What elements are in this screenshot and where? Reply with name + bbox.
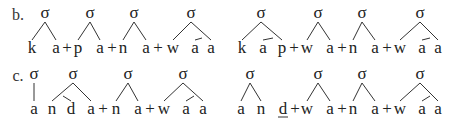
segment: a [87, 99, 95, 118]
branch-line [134, 22, 146, 40]
example-label: b. [12, 6, 24, 23]
branch-line [242, 22, 261, 40]
syllable-node: σ [357, 64, 366, 83]
branch-line [353, 83, 362, 101]
segment: w [167, 38, 180, 57]
segment: a [371, 38, 379, 57]
segment: a [259, 38, 267, 57]
syllable-node: σ [313, 3, 322, 22]
segment: a [237, 99, 245, 118]
segment: a [418, 38, 426, 57]
segment: a [326, 99, 334, 118]
branch-line [90, 22, 100, 40]
branch-line [123, 22, 134, 40]
segment: w [158, 99, 171, 118]
morpheme-boundary: + [153, 38, 163, 57]
syllable-node: σ [40, 3, 49, 22]
syllable-node: σ [415, 64, 424, 83]
morpheme-boundary: + [337, 99, 347, 118]
morpheme-boundary: + [145, 99, 155, 118]
segment: a [191, 38, 199, 57]
morpheme-boundary: + [382, 99, 392, 118]
syllable-node: σ [357, 3, 366, 22]
segment: a [434, 99, 442, 118]
syllable-diagram: b.ka+pa+na+waaσσσσkap+wa+na+waaσσσσc.and… [0, 0, 458, 124]
morpheme-boundary: + [98, 99, 108, 118]
segment: a [142, 38, 150, 57]
syllable-node: σ [256, 3, 265, 22]
segment: a [199, 99, 207, 118]
segment: w [301, 99, 314, 118]
example-label: c. [12, 67, 23, 84]
syllable-trees: b.ka+pa+na+waaσσσσkap+wa+na+waaσσσσc.and… [0, 0, 458, 124]
branch-line [73, 83, 91, 101]
segment: k [238, 38, 247, 57]
branch-line [128, 83, 138, 101]
segment: w [394, 99, 407, 118]
branch-line [400, 83, 420, 101]
segment: a [134, 99, 142, 118]
segment: a [96, 38, 104, 57]
segment: n [112, 99, 121, 118]
syllable-node: σ [29, 64, 38, 83]
morpheme-boundary: + [290, 99, 300, 118]
segment: w [301, 38, 314, 57]
branch-line [78, 22, 90, 40]
segment: n [48, 99, 57, 118]
branch-line [400, 22, 420, 40]
branch-line [318, 83, 330, 101]
syllable-node: σ [123, 64, 132, 83]
morpheme-boundary: + [107, 38, 117, 57]
segment: a [182, 99, 190, 118]
segment: w [394, 38, 407, 57]
branch-line [362, 83, 375, 101]
segment: k [28, 38, 37, 57]
segment: a [371, 99, 379, 118]
segment: a [418, 99, 426, 118]
syllable-node: σ [85, 3, 94, 22]
segment: n [119, 38, 128, 57]
morpheme-boundary: + [382, 38, 392, 57]
branch-line [362, 22, 375, 40]
branch-line [318, 22, 330, 40]
segment: a [207, 38, 215, 57]
segment: a [434, 38, 442, 57]
segment: d [279, 99, 288, 118]
branch-line [250, 83, 261, 101]
syllable-node: σ [129, 3, 138, 22]
branch-line [164, 83, 183, 101]
segment: a [326, 38, 334, 57]
syllable-node: σ [186, 3, 195, 22]
branch-line [241, 83, 250, 101]
branch-line [173, 22, 191, 40]
syllable-node: σ [245, 64, 254, 83]
syllable-node: σ [178, 64, 187, 83]
morpheme-boundary: + [289, 38, 299, 57]
morpheme-boundary: + [337, 38, 347, 57]
branch-line [116, 83, 128, 101]
branch-line [45, 22, 56, 40]
segment: n [349, 99, 358, 118]
syllable-node: σ [313, 64, 322, 83]
segment: p [74, 38, 83, 57]
segment: a [52, 38, 60, 57]
segment: d [67, 99, 76, 118]
syllable-node: σ [68, 64, 77, 83]
morpheme-boundary: + [62, 38, 72, 57]
branch-line [353, 22, 362, 40]
segment: p [278, 38, 287, 57]
segment: n [349, 38, 358, 57]
segment: n [257, 99, 266, 118]
branch-line [32, 22, 45, 40]
syllable-node: σ [415, 3, 424, 22]
segment: a [30, 99, 38, 118]
